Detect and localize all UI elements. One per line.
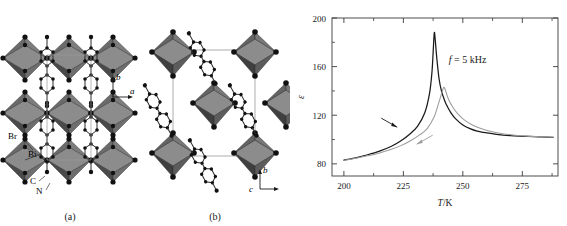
curve-cooling	[344, 32, 553, 160]
svg-text:a: a	[130, 86, 135, 96]
curve-heating	[344, 87, 553, 160]
panel-b-caption: (b)	[140, 211, 290, 222]
y-tick-label: 160	[313, 62, 327, 72]
x-tick-label: 225	[397, 181, 411, 191]
heating-direction-arrow-head	[417, 140, 423, 145]
svg-text:c: c	[249, 184, 253, 194]
plot-frame	[332, 18, 558, 176]
svg-text:N: N	[36, 186, 43, 196]
svg-text:C: C	[30, 176, 36, 186]
dielectric-constant-chart: 20022525027580120160200f = 5 kHzT/Kε	[290, 0, 567, 226]
panel-a-diagram: Br Bi C N b a	[0, 0, 140, 226]
panel-a-crystal-structure: Br Bi C N b a (	[0, 0, 140, 226]
panel-b-crystal-structure: b c (b)	[140, 0, 290, 226]
y-axis-title: ε	[296, 95, 306, 99]
panel-a-caption: (a)	[0, 211, 140, 222]
y-tick-label: 120	[313, 111, 327, 121]
atom-label-c: C	[30, 176, 45, 186]
atom-label-n: N	[36, 183, 50, 196]
y-tick-label: 80	[317, 159, 327, 169]
x-axis-title: T/K	[438, 198, 453, 208]
x-tick-label: 275	[516, 181, 530, 191]
octahedra-group	[149, 29, 290, 180]
y-tick-label: 200	[313, 14, 327, 24]
panel-b-diagram: b c	[140, 0, 290, 226]
svg-text:b: b	[263, 165, 268, 175]
figure-container: Br Bi C N b a (	[0, 0, 567, 226]
cooling-direction-arrow-head	[391, 123, 397, 128]
svg-text:b: b	[116, 72, 121, 82]
frequency-annotation: f = 5 kHz	[449, 54, 487, 65]
x-tick-label: 250	[456, 181, 470, 191]
octahedra-layer-bottom	[0, 136, 137, 184]
svg-text:Br: Br	[8, 131, 17, 141]
chart-svg: 20022525027580120160200f = 5 kHzT/Kε	[290, 0, 567, 226]
x-tick-label: 200	[337, 181, 351, 191]
